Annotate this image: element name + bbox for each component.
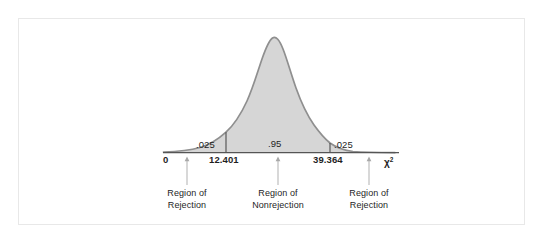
- annotation-arrow-left: [185, 157, 190, 186]
- tick-label-upper-critical: 39.364: [313, 155, 343, 165]
- chi-exponent: 2: [390, 156, 394, 163]
- tick-label-origin: 0: [163, 155, 168, 165]
- annotation-right-line2: Rejection: [329, 200, 409, 212]
- x-axis-label: χ2: [384, 155, 394, 168]
- annotation-center-line2: Nonrejection: [230, 200, 326, 212]
- annotation-left-rejection: Region of Rejection: [147, 188, 227, 211]
- density-curve-fill: [164, 37, 396, 152]
- area-label-center: .95: [268, 139, 282, 149]
- annotation-arrow-center: [276, 157, 281, 186]
- tick-label-lower-critical: 12.401: [209, 155, 239, 165]
- area-label-left-tail: .025: [196, 140, 215, 150]
- annotation-right-line1: Region of: [329, 188, 409, 200]
- annotation-center-nonrejection: Region of Nonrejection: [230, 188, 326, 211]
- annotation-arrow-right: [367, 157, 372, 186]
- area-label-right-tail: .025: [334, 140, 353, 150]
- annotation-left-line1: Region of: [147, 188, 227, 200]
- figure-page: .025 .95 .025 0 12.401 39.364 χ2 Region …: [0, 0, 544, 241]
- annotation-left-line2: Rejection: [147, 200, 227, 212]
- annotation-center-line1: Region of: [230, 188, 326, 200]
- chi-square-distribution-figure: .025 .95 .025 0 12.401 39.364 χ2 Region …: [0, 0, 544, 241]
- annotation-right-rejection: Region of Rejection: [329, 188, 409, 211]
